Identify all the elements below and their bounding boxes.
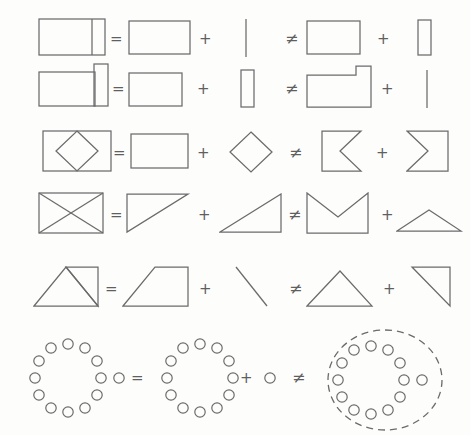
operator-equals-row4: =	[110, 208, 123, 223]
row-1: = + ≠ +	[0, 14, 471, 64]
rectangle-with-inscribed-diamond	[42, 130, 116, 174]
operator-not-equals-row5: ≠	[289, 281, 302, 297]
operator-equals-row5: =	[105, 282, 118, 297]
plain-rectangle-row3-term1	[130, 133, 190, 171]
operator-plus-row5-b: +	[383, 282, 396, 297]
right-triangle-row5	[410, 265, 458, 309]
circle-ring-in-dashed-ellipse	[313, 324, 469, 435]
row-3: = + ≠ +	[0, 126, 471, 178]
v-notch-crown-shape	[306, 192, 372, 236]
operator-plus-row3-a: +	[197, 146, 210, 161]
triangle-plus-right-triangle-composite	[33, 264, 103, 310]
isosceles-triangle-row5	[306, 268, 376, 310]
operator-equals-row1: =	[110, 32, 123, 47]
operator-not-equals-row3: ≠	[289, 145, 302, 161]
upper-left-triangle-row4	[126, 193, 192, 235]
left-chevron-notch-square	[321, 130, 365, 174]
operator-plus-row4-b: +	[381, 208, 394, 223]
plain-rectangle-row1-term3	[306, 20, 362, 56]
rectangle-with-right-divider	[38, 18, 108, 58]
operator-not-equals-row6: ≠	[292, 370, 305, 386]
operator-plus-row2-b: +	[381, 82, 394, 97]
operator-not-equals-row1: ≠	[285, 31, 298, 47]
narrow-vertical-rectangle-row2	[240, 69, 258, 109]
operator-plus-row3-b: +	[376, 146, 389, 161]
operator-not-equals-row2: ≠	[285, 81, 298, 97]
operator-equals-row3: =	[113, 146, 126, 161]
operator-plus-row2-a: +	[197, 82, 210, 97]
circle-ring-row6	[150, 328, 250, 428]
vertical-line-row2	[424, 69, 430, 109]
vertical-line-row1	[243, 18, 249, 58]
row-2: = + ≠ +	[0, 63, 471, 113]
row-4: = + ≠ +	[0, 188, 471, 240]
diamond-row3	[228, 130, 274, 174]
single-circle-row6	[263, 371, 277, 385]
operator-plus-row1-b: +	[377, 32, 390, 47]
figure-canvas: = + ≠ +	[0, 0, 471, 435]
rectangle-with-crossed-diagonals	[38, 192, 108, 236]
operator-plus-row1-a: +	[199, 32, 212, 47]
operator-equals-row2: =	[112, 82, 125, 97]
operator-not-equals-row4: ≠	[288, 207, 301, 223]
operator-plus-row5-a: +	[199, 282, 212, 297]
plain-rectangle-row2-term1	[128, 72, 184, 108]
row-5: = + ≠ +	[0, 262, 471, 314]
operator-plus-row6: +	[240, 371, 253, 386]
trapezoid-row5	[122, 264, 194, 310]
row-6: = +	[0, 328, 471, 433]
flat-triangle-row4	[396, 208, 464, 234]
operator-plus-row4-a: +	[198, 208, 211, 223]
rectangle-with-tall-right-bar	[38, 63, 110, 109]
sigma-chevron-shape	[406, 130, 454, 174]
notched-rectangle-row2	[306, 65, 378, 111]
plain-rectangle-row1-term1	[128, 20, 192, 56]
operator-equals-row6: =	[131, 371, 144, 386]
circle-ring-with-extra-dot	[18, 328, 128, 428]
dashed-ellipse-boundary	[328, 330, 442, 430]
lower-right-triangle-row4	[219, 193, 285, 235]
diagonal-line-row5	[234, 265, 274, 309]
narrow-vertical-rectangle-row1	[417, 19, 435, 57]
